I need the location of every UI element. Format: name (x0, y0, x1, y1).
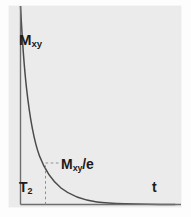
mxy-e-base: M (61, 156, 73, 172)
decay-value-label-mxy-over-e: Mxy/e (61, 157, 94, 171)
mxy-e-suffix: /e (82, 156, 94, 172)
x-axis-label-t: t (152, 180, 157, 194)
decay-curve (21, 6, 176, 205)
y-axis-label-mxy: Mxy (19, 32, 42, 47)
mxy-base: M (19, 31, 32, 48)
mxy-e-subscript: xy (73, 163, 83, 173)
t2-base: T (19, 179, 28, 195)
time-constant-label-t2: T2 (19, 180, 32, 194)
mxy-subscript: xy (32, 38, 42, 49)
t2-decay-figure: Mxy Mxy/e T2 t (0, 0, 191, 217)
t2-subscript: 2 (28, 186, 33, 196)
t-base: t (152, 179, 157, 195)
